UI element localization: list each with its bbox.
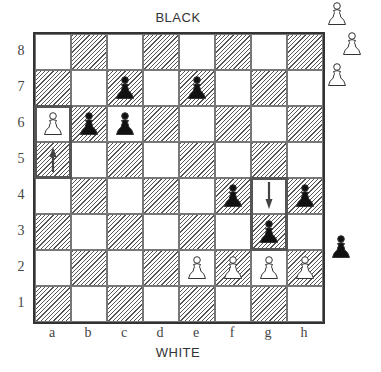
square-h3[interactable]: [287, 214, 323, 250]
square-g6[interactable]: [251, 106, 287, 142]
square-f8[interactable]: [215, 34, 251, 70]
square-f3[interactable]: [215, 214, 251, 250]
square-g5[interactable]: [251, 142, 287, 178]
square-b8[interactable]: [71, 34, 107, 70]
square-c1[interactable]: [107, 286, 143, 322]
square-h1[interactable]: [287, 286, 323, 322]
black-pawn-b6[interactable]: [71, 106, 107, 142]
rank-label-2: 2: [14, 259, 28, 275]
square-c3[interactable]: [107, 214, 143, 250]
square-f7[interactable]: [215, 70, 251, 106]
rank-label-6: 6: [14, 115, 28, 131]
square-b5[interactable]: [71, 142, 107, 178]
rank-label-7: 7: [14, 79, 28, 95]
square-b4[interactable]: [71, 178, 107, 214]
square-f1[interactable]: [215, 286, 251, 322]
square-d3[interactable]: [143, 214, 179, 250]
square-b3[interactable]: [71, 214, 107, 250]
black-pawn-f4[interactable]: [215, 178, 251, 214]
white-pawn-e2[interactable]: [179, 250, 215, 286]
square-g1[interactable]: [251, 286, 287, 322]
square-c4[interactable]: [107, 178, 143, 214]
file-label-f: f: [214, 325, 250, 341]
captured-white-pawn-3: [325, 62, 355, 92]
square-b1[interactable]: [71, 286, 107, 322]
square-g7[interactable]: [251, 70, 287, 106]
white-pawn-a6[interactable]: [35, 106, 71, 142]
file-label-g: g: [250, 325, 286, 341]
square-d7[interactable]: [143, 70, 179, 106]
square-d8[interactable]: [143, 34, 179, 70]
square-a7[interactable]: [35, 70, 71, 106]
square-b2[interactable]: [71, 250, 107, 286]
square-f5[interactable]: [215, 142, 251, 178]
rank-label-8: 8: [14, 43, 28, 59]
square-b7[interactable]: [71, 70, 107, 106]
file-label-d: d: [142, 325, 178, 341]
square-c5[interactable]: [107, 142, 143, 178]
square-a2[interactable]: [35, 250, 71, 286]
file-label-h: h: [286, 325, 322, 341]
square-h5[interactable]: [287, 142, 323, 178]
square-a1[interactable]: [35, 286, 71, 322]
rank-label-1: 1: [14, 295, 28, 311]
black-pawn-c6[interactable]: [107, 106, 143, 142]
black-pawn-c7[interactable]: [107, 70, 143, 106]
black-pawn-g3[interactable]: [251, 214, 287, 250]
white-side-label: WHITE: [0, 345, 356, 360]
square-h7[interactable]: [287, 70, 323, 106]
captured-black-pawn-1: [329, 234, 359, 264]
black-pawn-e7[interactable]: [179, 70, 215, 106]
square-d5[interactable]: [143, 142, 179, 178]
square-d1[interactable]: [143, 286, 179, 322]
rank-label-5: 5: [14, 151, 28, 167]
square-h6[interactable]: [287, 106, 323, 142]
square-a3[interactable]: [35, 214, 71, 250]
square-d2[interactable]: [143, 250, 179, 286]
rank-label-4: 4: [14, 187, 28, 203]
file-label-b: b: [70, 325, 106, 341]
white-pawn-g2[interactable]: [251, 250, 287, 286]
arrow-down-icon: [251, 178, 287, 214]
square-a8[interactable]: [35, 34, 71, 70]
white-pawn-h2[interactable]: [287, 250, 323, 286]
square-c2[interactable]: [107, 250, 143, 286]
square-d6[interactable]: [143, 106, 179, 142]
file-label-c: c: [106, 325, 142, 341]
square-a4[interactable]: [35, 178, 71, 214]
square-e1[interactable]: [179, 286, 215, 322]
chess-board: [33, 32, 325, 324]
black-side-label: BLACK: [0, 10, 356, 25]
square-e3[interactable]: [179, 214, 215, 250]
square-c8[interactable]: [107, 34, 143, 70]
rank-label-3: 3: [14, 223, 28, 239]
square-e8[interactable]: [179, 34, 215, 70]
captured-white-pawn-2: [340, 31, 370, 61]
square-e6[interactable]: [179, 106, 215, 142]
square-e5[interactable]: [179, 142, 215, 178]
black-pawn-h4[interactable]: [287, 178, 323, 214]
captured-white-pawn-1: [325, 1, 355, 31]
arrow-up-icon: [35, 142, 71, 178]
square-e4[interactable]: [179, 178, 215, 214]
file-label-a: a: [34, 325, 70, 341]
white-pawn-f2[interactable]: [215, 250, 251, 286]
file-label-e: e: [178, 325, 214, 341]
square-f6[interactable]: [215, 106, 251, 142]
square-h8[interactable]: [287, 34, 323, 70]
square-g8[interactable]: [251, 34, 287, 70]
square-d4[interactable]: [143, 178, 179, 214]
